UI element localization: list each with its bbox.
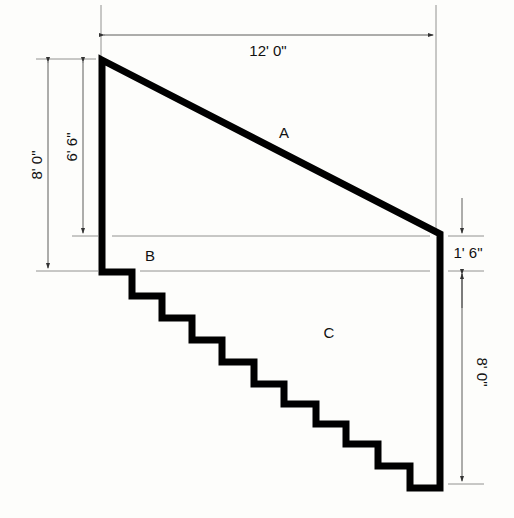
- dimension-right-offset: 1' 6": [453, 198, 482, 308]
- dimension-left-overall-height: 8' 0": [28, 62, 48, 268]
- dimension-left-upper-height: 6' 6": [63, 62, 83, 233]
- dimension-left-upper-height-label: 6' 6": [63, 132, 80, 161]
- region-label-b: B: [145, 247, 155, 264]
- dimension-right-lower-height-label: 8' 0": [474, 357, 491, 386]
- dimension-top-width: 12' 0": [104, 35, 433, 59]
- dimension-right-offset-label: 1' 6": [453, 244, 482, 261]
- region-label-c: C: [324, 324, 335, 341]
- dimension-right-lower-height: 8' 0": [462, 274, 491, 481]
- region-label-a: A: [279, 124, 289, 141]
- dimension-left-overall-height-label: 8' 0": [28, 150, 45, 179]
- stair-wall-diagram: 12' 0" 8' 0" 6' 6" 1' 6" 8' 0" A B C: [0, 0, 514, 518]
- dimension-top-width-label: 12' 0": [249, 42, 286, 59]
- wall-outline: [102, 60, 440, 488]
